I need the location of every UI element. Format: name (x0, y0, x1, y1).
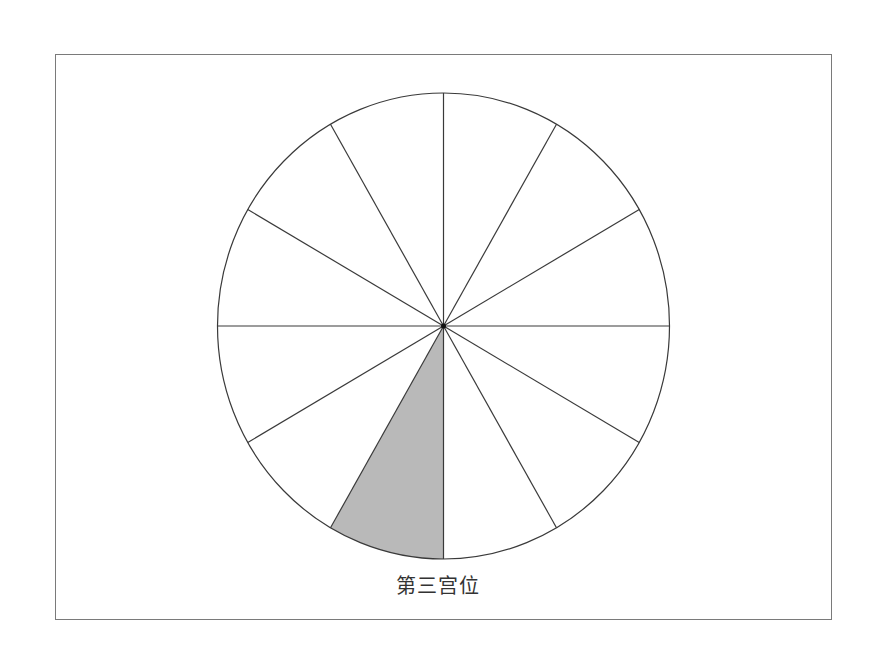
highlighted-house-sector (331, 326, 444, 559)
house-divider-line (331, 124, 444, 326)
house-divider-line (444, 326, 640, 443)
house-divider-line (444, 124, 557, 326)
house-divider-line (248, 210, 444, 327)
diagram-caption: 第三宫位 (0, 570, 875, 599)
house-divider-line (444, 326, 557, 528)
center-point (441, 324, 446, 329)
house-divider-line (444, 210, 640, 327)
house-wheel-diagram (0, 0, 875, 667)
